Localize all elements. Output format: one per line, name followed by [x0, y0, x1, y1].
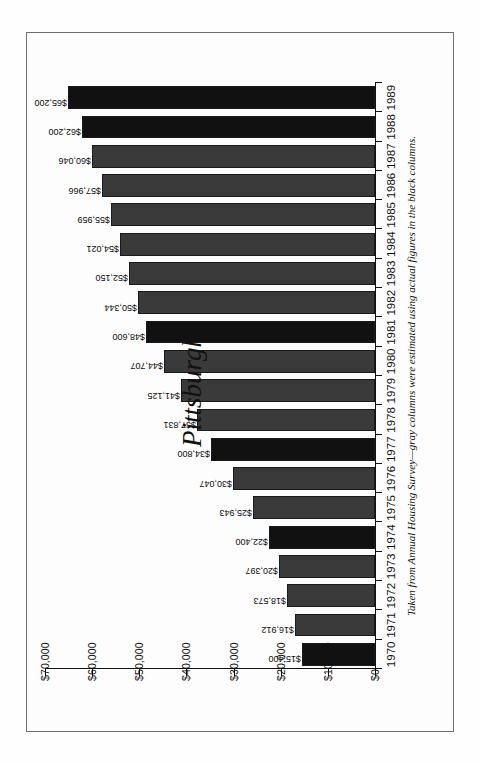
category-axis-tick — [375, 258, 382, 259]
category-axis-label: 1972 — [385, 583, 397, 609]
category-axis-tick — [375, 463, 382, 464]
category-axis-label: 1973 — [385, 554, 397, 580]
category-axis-tick — [375, 199, 382, 200]
bar-value-label: $18,573 — [254, 596, 287, 605]
bar: $37,831 — [197, 409, 375, 432]
category-axis-tick — [375, 434, 382, 435]
category-axis-tick — [375, 170, 382, 171]
bar: $20,397 — [279, 555, 375, 578]
bar: $52,150 — [129, 262, 375, 285]
bar-value-label: $41,125 — [148, 391, 181, 400]
bar-value-label: $20,397 — [245, 566, 278, 575]
bar-value-label: $48,600 — [112, 332, 145, 341]
category-axis-label: 1971 — [385, 612, 397, 638]
category-axis-label: 1983 — [385, 261, 397, 287]
category-axis-label: 1989 — [385, 85, 397, 111]
figure-frame: $0$10,000$20,000$30,000$40,000$50,000$60… — [26, 32, 454, 732]
bar-value-label: $16,912 — [262, 625, 295, 634]
bar-value-label: $15,400 — [269, 654, 302, 663]
category-axis-label: 1987 — [385, 143, 397, 169]
bar-value-label: $57,966 — [68, 186, 101, 195]
bar: $62,200 — [82, 116, 375, 139]
category-axis-label: 1970 — [385, 642, 397, 668]
bar-value-label: $30,047 — [200, 479, 233, 488]
bar: $65,200 — [68, 86, 375, 109]
chart-title: Pittsburgh — [177, 334, 208, 447]
bar: $50,344 — [138, 291, 375, 314]
bar-value-label: $55,959 — [78, 215, 111, 224]
category-axis-tick — [375, 522, 382, 523]
category-axis-label: 1975 — [385, 495, 397, 521]
category-axis-tick — [375, 551, 382, 552]
bar: $34,800 — [211, 438, 375, 461]
figure-page: $0$10,000$20,000$30,000$40,000$50,000$60… — [0, 0, 480, 762]
bar: $55,959 — [111, 203, 375, 226]
category-axis-tick — [375, 668, 382, 669]
bar-chart-plot: $0$10,000$20,000$30,000$40,000$50,000$60… — [27, 65, 455, 762]
category-axis-label: 1985 — [385, 202, 397, 228]
bar-value-label: $62,200 — [48, 127, 81, 136]
bar-value-label: $44,707 — [131, 361, 164, 370]
bar-value-label: $65,200 — [34, 98, 67, 107]
bar: $18,573 — [287, 584, 375, 607]
category-axis-tick — [375, 141, 382, 142]
bar-value-label: $34,800 — [177, 449, 210, 458]
bar: $60,046 — [92, 145, 375, 168]
bar-value-label: $22,400 — [236, 537, 269, 546]
category-axis-tick — [375, 639, 382, 640]
category-axis-label: 1979 — [385, 378, 397, 404]
category-axis-tick — [375, 287, 382, 288]
category-axis-label: 1986 — [385, 173, 397, 199]
bar: $41,125 — [181, 379, 375, 402]
category-axis-tick — [375, 111, 382, 112]
category-axis-tick — [375, 229, 382, 230]
bar-value-label: $60,046 — [58, 156, 91, 165]
bar-value-label: $54,021 — [87, 244, 120, 253]
category-axis-label: 1980 — [385, 349, 397, 375]
category-axis-tick — [375, 375, 382, 376]
bar: $16,912 — [295, 614, 375, 637]
category-axis-label: 1974 — [385, 524, 397, 550]
category-axis-label: 1976 — [385, 466, 397, 492]
category-axis-tick — [375, 580, 382, 581]
bar: $57,966 — [102, 174, 375, 197]
category-axis-tick — [375, 609, 382, 610]
bar: $30,047 — [233, 467, 375, 490]
category-axis-tick — [375, 346, 382, 347]
category-axis-tick — [375, 82, 382, 83]
category-axis-label: 1977 — [385, 436, 397, 462]
bar: $15,400 — [302, 643, 375, 666]
category-axis-label: 1981 — [385, 319, 397, 345]
category-axis-tick — [375, 404, 382, 405]
category-axis-label: 1984 — [385, 231, 397, 257]
chart-caption: Taken from Annual Housing Survey—gray co… — [405, 83, 417, 669]
bar: $22,400 — [269, 526, 375, 549]
category-axis-label: 1982 — [385, 290, 397, 316]
rotated-chart-canvas: $0$10,000$20,000$30,000$40,000$50,000$60… — [27, 65, 455, 762]
bar-value-label: $52,150 — [96, 273, 129, 282]
category-axis-label: 1978 — [385, 407, 397, 433]
bar-value-label: $25,943 — [219, 508, 252, 517]
category-axis-tick — [375, 316, 382, 317]
category-axis-tick — [375, 492, 382, 493]
bar: $25,943 — [253, 496, 375, 519]
category-axis-label: 1988 — [385, 114, 397, 140]
bar: $54,021 — [120, 233, 375, 256]
bar-value-label: $50,344 — [104, 303, 137, 312]
